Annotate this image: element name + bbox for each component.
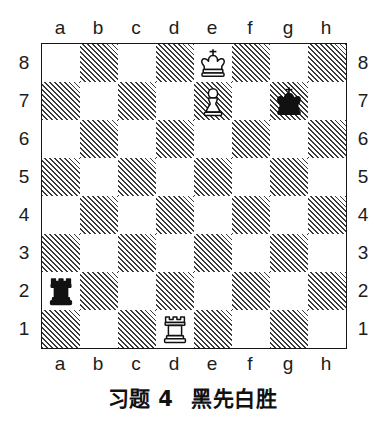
rank-label-3-right: 3 xyxy=(348,233,378,271)
square-b6[interactable] xyxy=(80,120,118,158)
file-label-f-bottom: f xyxy=(231,350,269,376)
rank-label-5-left: 5 xyxy=(9,157,39,195)
square-h6[interactable] xyxy=(308,120,346,158)
rank-label-6-left: 6 xyxy=(9,119,39,157)
square-g2[interactable] xyxy=(270,272,308,310)
square-c4[interactable] xyxy=(118,196,156,234)
caption-stipulation: 黑先白胜 xyxy=(191,387,277,411)
square-c5[interactable] xyxy=(118,158,156,196)
square-h4[interactable] xyxy=(308,196,346,234)
square-c7[interactable] xyxy=(118,82,156,120)
square-f6[interactable] xyxy=(232,120,270,158)
square-h5[interactable] xyxy=(308,158,346,196)
square-e2[interactable] xyxy=(194,272,232,310)
file-label-b-top: b xyxy=(79,14,117,40)
rank-label-2-right: 2 xyxy=(348,271,378,309)
square-h3[interactable] xyxy=(308,234,346,272)
chessboard[interactable] xyxy=(41,43,347,349)
square-b4[interactable] xyxy=(80,196,118,234)
square-a4[interactable] xyxy=(42,196,80,234)
rank-label-8-right: 8 xyxy=(348,43,378,81)
square-g8[interactable] xyxy=(270,44,308,82)
rank-labels-left: 87654321 xyxy=(9,43,39,347)
square-e8[interactable] xyxy=(194,44,232,82)
file-label-g-top: g xyxy=(269,14,307,40)
square-a1[interactable] xyxy=(42,310,80,348)
square-c1[interactable] xyxy=(118,310,156,348)
square-d1[interactable] xyxy=(156,310,194,348)
file-label-f-top: f xyxy=(231,14,269,40)
file-label-h-bottom: h xyxy=(307,350,345,376)
square-g5[interactable] xyxy=(270,158,308,196)
rank-label-1-left: 1 xyxy=(9,309,39,347)
square-b1[interactable] xyxy=(80,310,118,348)
square-d3[interactable] xyxy=(156,234,194,272)
square-h7[interactable] xyxy=(308,82,346,120)
square-a3[interactable] xyxy=(42,234,80,272)
rank-label-5-right: 5 xyxy=(348,157,378,195)
file-label-a-bottom: a xyxy=(41,350,79,376)
file-label-d-bottom: d xyxy=(155,350,193,376)
square-b8[interactable] xyxy=(80,44,118,82)
square-c6[interactable] xyxy=(118,120,156,158)
rank-label-1-right: 1 xyxy=(348,309,378,347)
square-e7[interactable] xyxy=(194,82,232,120)
diagram-caption: 习题 4黑先白胜 xyxy=(0,382,385,412)
file-label-c-bottom: c xyxy=(117,350,155,376)
square-c3[interactable] xyxy=(118,234,156,272)
square-g3[interactable] xyxy=(270,234,308,272)
square-d7[interactable] xyxy=(156,82,194,120)
square-a8[interactable] xyxy=(42,44,80,82)
chess-diagram: abcdefgh 87654321 87654321 abcdefgh 习题 4… xyxy=(0,0,385,426)
square-f5[interactable] xyxy=(232,158,270,196)
square-e5[interactable] xyxy=(194,158,232,196)
square-f7[interactable] xyxy=(232,82,270,120)
square-a7[interactable] xyxy=(42,82,80,120)
square-a5[interactable] xyxy=(42,158,80,196)
rank-label-7-left: 7 xyxy=(9,81,39,119)
square-f1[interactable] xyxy=(232,310,270,348)
square-b5[interactable] xyxy=(80,158,118,196)
chessboard-squares xyxy=(42,44,346,348)
square-b2[interactable] xyxy=(80,272,118,310)
rank-labels-right: 87654321 xyxy=(348,43,378,347)
square-e6[interactable] xyxy=(194,120,232,158)
square-g7[interactable] xyxy=(270,82,308,120)
square-e3[interactable] xyxy=(194,234,232,272)
rank-label-6-right: 6 xyxy=(348,119,378,157)
rank-label-8-left: 8 xyxy=(9,43,39,81)
square-a2[interactable] xyxy=(42,272,80,310)
square-f3[interactable] xyxy=(232,234,270,272)
square-a6[interactable] xyxy=(42,120,80,158)
file-labels-top: abcdefgh xyxy=(41,14,345,40)
square-c2[interactable] xyxy=(118,272,156,310)
file-labels-bottom: abcdefgh xyxy=(41,350,345,376)
rank-label-4-right: 4 xyxy=(348,195,378,233)
square-b7[interactable] xyxy=(80,82,118,120)
file-label-e-bottom: e xyxy=(193,350,231,376)
square-f4[interactable] xyxy=(232,196,270,234)
square-d4[interactable] xyxy=(156,196,194,234)
square-d5[interactable] xyxy=(156,158,194,196)
square-b3[interactable] xyxy=(80,234,118,272)
file-label-a-top: a xyxy=(41,14,79,40)
rank-label-3-left: 3 xyxy=(9,233,39,271)
square-h1[interactable] xyxy=(308,310,346,348)
square-e1[interactable] xyxy=(194,310,232,348)
square-g6[interactable] xyxy=(270,120,308,158)
square-e4[interactable] xyxy=(194,196,232,234)
file-label-b-bottom: b xyxy=(79,350,117,376)
square-c8[interactable] xyxy=(118,44,156,82)
square-g4[interactable] xyxy=(270,196,308,234)
square-d2[interactable] xyxy=(156,272,194,310)
square-g1[interactable] xyxy=(270,310,308,348)
rank-label-7-right: 7 xyxy=(348,81,378,119)
square-d6[interactable] xyxy=(156,120,194,158)
file-label-g-bottom: g xyxy=(269,350,307,376)
rank-label-4-left: 4 xyxy=(9,195,39,233)
square-f2[interactable] xyxy=(232,272,270,310)
square-h8[interactable] xyxy=(308,44,346,82)
square-f8[interactable] xyxy=(232,44,270,82)
square-d8[interactable] xyxy=(156,44,194,82)
square-h2[interactable] xyxy=(308,272,346,310)
